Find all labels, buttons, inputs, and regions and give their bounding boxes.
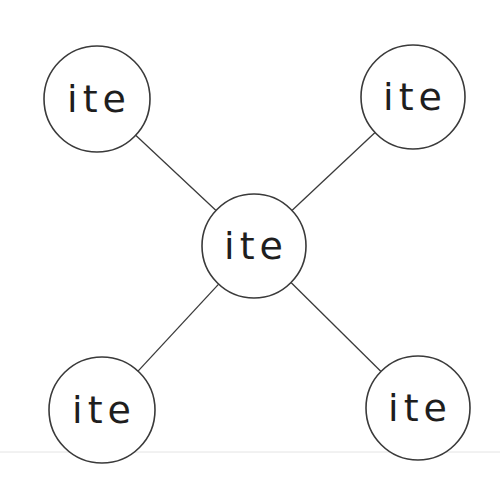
nodes-group: iteiteiteiteite [44,45,470,463]
star-diagram: iteiteiteiteite [0,0,500,498]
edge-center-to-top-right [292,133,375,211]
edge-center-to-bottom-left [138,284,219,371]
node-label: ite [72,388,136,432]
node-label: ite [67,77,131,121]
node-bottom-right: ite [366,356,470,460]
node-label: ite [383,75,447,119]
node-label: ite [224,224,288,268]
node-bottom-left: ite [49,357,155,463]
node-center: ite [202,194,306,298]
node-top-right: ite [361,45,465,149]
edge-center-to-bottom-right [291,283,381,372]
edge-center-to-top-left [136,135,216,210]
node-label: ite [388,386,452,430]
node-top-left: ite [44,46,150,152]
